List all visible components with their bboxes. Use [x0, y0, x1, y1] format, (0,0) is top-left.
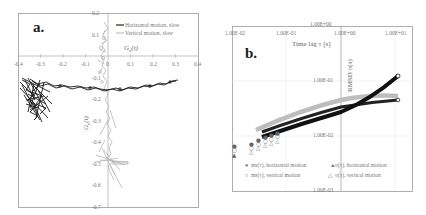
x-tick-label: 1.00E+01: [385, 30, 407, 36]
y-tick-label: 1.00E-02: [313, 132, 334, 138]
legend-marker: ○: [245, 172, 248, 178]
svg-text:●: ●: [249, 141, 254, 147]
svg-text:●: ●: [275, 130, 280, 136]
x-tick-label: 1.00E-01: [276, 30, 297, 36]
y-tick-label: 1.00E+00: [310, 21, 332, 27]
legend-marker: ●: [245, 162, 248, 168]
x-tick-label: 1.00E+00: [334, 30, 356, 36]
legend-item-sigma-vertical: σ(τ), vertical motion: [335, 172, 381, 179]
legend-item-ms-vertical: ms(τ), vertical motion: [251, 172, 301, 179]
legend-item-ms-horizontal: ms(τ), horizontal motion: [251, 162, 306, 169]
svg-text:●: ●: [269, 132, 274, 138]
y-tick-label: 1.00E-03: [313, 187, 334, 193]
legend-item-sigma-horizontal: σ(τ), horizontal motion: [335, 162, 387, 169]
svg-text:●: ●: [256, 137, 261, 143]
legend-marker: △: [328, 172, 333, 178]
chart-panel-b: 1.00E-02 1.00E-01 1.00E+00 1.00E+01 1.00…: [0, 0, 426, 215]
y-axis-label-b: RMSD σ(τ): [346, 58, 354, 92]
panel-label-b: b.: [245, 45, 257, 61]
x-axis-label-b: Time lag τ [s]: [292, 40, 331, 48]
y-tick-label: 1.00E-01: [313, 77, 334, 83]
svg-text:●: ●: [263, 134, 268, 140]
svg-text:●: ●: [232, 143, 237, 149]
chart-b-svg: 1.00E-02 1.00E-01 1.00E+00 1.00E+01 1.00…: [0, 0, 426, 215]
x-tick-label: 1.00E-02: [225, 30, 246, 36]
